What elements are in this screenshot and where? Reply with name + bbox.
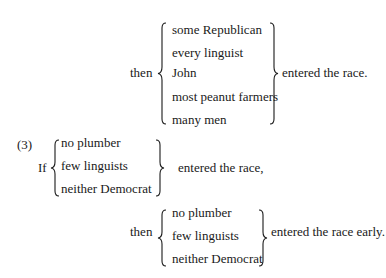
left-brace-icon: [158, 209, 168, 267]
list-item: some Republican: [172, 22, 262, 38]
then-word: then: [130, 224, 152, 240]
list-item: few linguists: [61, 158, 128, 174]
predicate: entered the race early.: [271, 224, 385, 240]
list-item: no plumber: [61, 135, 121, 151]
list-item: neither Democrat: [172, 251, 263, 267]
predicate: entered the race,: [178, 160, 264, 176]
list-item: no plumber: [172, 205, 232, 221]
list-item: most peanut farmers: [172, 89, 278, 105]
right-brace-icon: [259, 209, 269, 267]
list-item: John: [172, 65, 197, 81]
right-brace-icon: [156, 139, 166, 197]
if-word: If: [38, 160, 47, 176]
right-brace-icon: [270, 22, 280, 125]
list-item: neither Democrat: [61, 181, 152, 197]
list-item: many men: [172, 112, 227, 128]
list-item: every linguist: [172, 45, 243, 61]
then-word: then: [130, 65, 152, 81]
left-brace-icon: [158, 22, 168, 125]
left-brace-icon: [51, 139, 61, 197]
list-item: few linguists: [172, 228, 239, 244]
example-number: (3): [17, 137, 32, 153]
predicate: entered the race.: [282, 65, 368, 81]
